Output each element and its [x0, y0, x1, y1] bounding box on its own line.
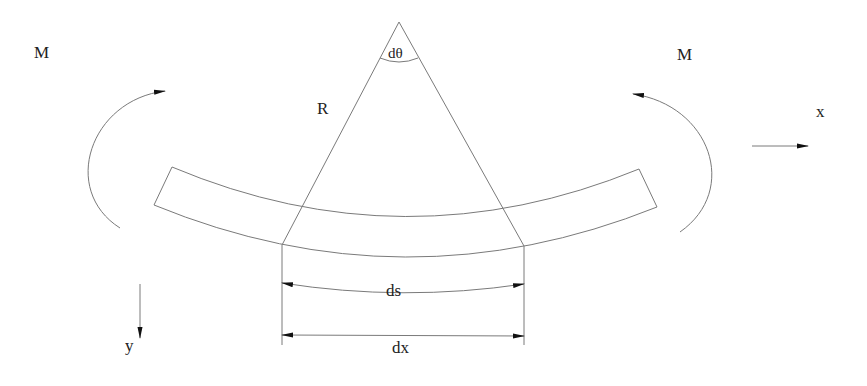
beam-top-edge	[172, 167, 639, 217]
x-axis-label: x	[816, 102, 825, 121]
moment-arrow-left	[88, 91, 165, 228]
radius-line-left	[282, 22, 399, 245]
beam-bottom-edge	[154, 205, 657, 257]
moment-label-right: M	[677, 45, 692, 64]
radius-lines	[282, 22, 524, 246]
ds-label: ds	[386, 281, 401, 300]
radius-line-right	[399, 22, 524, 246]
ds-dimension-arrow	[282, 283, 524, 293]
curved-beam	[154, 167, 657, 257]
dx-label: dx	[392, 338, 410, 357]
beam-bending-diagram: M M R dθ x y ds dx	[0, 0, 867, 386]
dx-dimension-arrow	[282, 335, 524, 336]
y-axis-label: y	[125, 336, 134, 355]
beam-right-end	[639, 169, 657, 207]
moment-label-left: M	[34, 43, 49, 62]
angle-label: dθ	[388, 45, 403, 61]
radius-label: R	[317, 99, 329, 118]
beam-left-end	[154, 167, 172, 205]
